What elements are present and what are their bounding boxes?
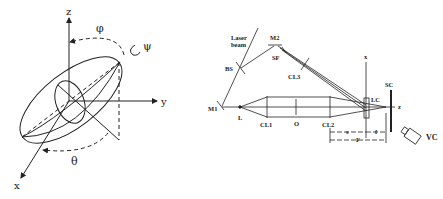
label-laser: Laser <box>231 34 247 41</box>
mirror-m1 <box>217 101 224 110</box>
ellipsoid-meridian-1 <box>22 62 120 137</box>
projection-line <box>58 85 119 140</box>
theta-label: θ <box>71 155 78 168</box>
label-cl1: CL1 <box>260 121 272 128</box>
ellipsoid-meridian-2 <box>22 62 120 137</box>
label-x-axis: x <box>364 53 368 60</box>
beam-bs-m2 <box>241 46 274 68</box>
beam-m2-lc-3 <box>282 50 366 111</box>
label-cl3: CL3 <box>288 73 301 80</box>
y-label: y <box>160 96 167 107</box>
optical-labels: Laser beam M2 SF BS CL3 M1 L CL1 O CL2 x… <box>208 34 438 143</box>
beam-cl2-focus-bottom <box>330 107 386 117</box>
label-sf: SF <box>272 54 280 61</box>
figure-canvas: z y x φ ψ θ <box>0 0 443 199</box>
phi-label: φ <box>96 22 104 35</box>
ellipsoid-outline <box>6 41 135 159</box>
liquid-crystal-cell-lc <box>364 98 369 118</box>
ellipsoid-cross-section <box>49 77 90 128</box>
ellipsoid-long-axis <box>22 62 120 137</box>
label-vc: VC <box>426 133 438 142</box>
label-cl2: CL2 <box>322 121 334 128</box>
label-m1: M1 <box>208 105 217 112</box>
label-dim-f-small: f <box>375 128 378 135</box>
psi-label: ψ <box>143 40 152 53</box>
label-lc: LC <box>371 96 380 103</box>
beam-l-cl1-bottom <box>240 107 267 117</box>
x-axis <box>21 101 69 178</box>
phi-arc <box>70 38 124 55</box>
video-camera-vc-icon <box>400 125 421 144</box>
theta-arc <box>43 133 108 151</box>
lens-cl3 <box>301 58 309 70</box>
label-m2: M2 <box>270 34 279 41</box>
label-bs: BS <box>225 65 233 72</box>
label-sc: SC <box>385 81 394 88</box>
lens-l-point <box>239 106 242 109</box>
label-dim-F: F <box>356 136 360 143</box>
psi-rotation-icon <box>130 45 140 55</box>
label-beam: beam <box>231 41 247 48</box>
label-o: O <box>294 120 299 127</box>
label-l: L <box>238 114 243 121</box>
ellipsoid-diagram <box>6 18 157 178</box>
label-dim-s: s <box>346 128 349 135</box>
beam-l-cl1-top <box>240 97 267 107</box>
z-label: z <box>66 6 71 17</box>
x-label: x <box>14 180 20 191</box>
label-z-axis: z <box>398 103 401 110</box>
